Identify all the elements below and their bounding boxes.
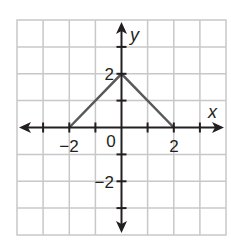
x-tick-label-neg2: −2 bbox=[59, 137, 78, 156]
coordinate-plane: y x −2 0 2 2 −2 bbox=[0, 0, 231, 242]
origin-label: 0 bbox=[106, 132, 115, 151]
x-axis-label: x bbox=[207, 102, 218, 122]
y-tick-label-2: 2 bbox=[105, 65, 114, 84]
y-tick-label-neg2: −2 bbox=[95, 173, 114, 192]
y-axis-label: y bbox=[128, 25, 140, 45]
x-tick-label-2: 2 bbox=[169, 137, 178, 156]
